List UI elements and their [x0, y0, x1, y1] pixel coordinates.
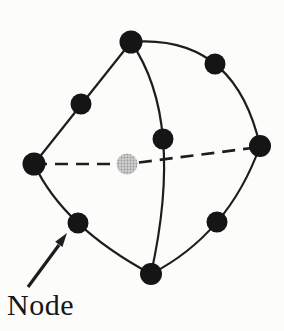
hidden-node-mid-hidden: [117, 154, 138, 175]
node-corner-right: [249, 135, 271, 157]
node-label: Node: [7, 290, 74, 320]
finite-element-figure: Node: [0, 0, 284, 331]
node-pointer-arrow-shaft: [28, 245, 59, 287]
node-mid-left-bottom: [68, 213, 89, 234]
node-mid-top-left: [71, 94, 92, 115]
element-edge-front: [131, 42, 164, 274]
element-edge-right-bottom: [151, 146, 260, 274]
element-edge-hidden: [34, 147, 260, 164]
element-diagram: [0, 0, 284, 331]
element-edge-top-right: [131, 41, 260, 146]
node-pointer-arrowhead-icon: [55, 233, 67, 247]
node-corner-bottom: [140, 263, 162, 285]
node-mid-right-bottom: [207, 212, 228, 233]
node-corner-left: [23, 153, 46, 176]
node-mid-front: [153, 129, 174, 150]
node-mid-top-right: [205, 54, 226, 75]
node-corner-top: [120, 31, 143, 54]
